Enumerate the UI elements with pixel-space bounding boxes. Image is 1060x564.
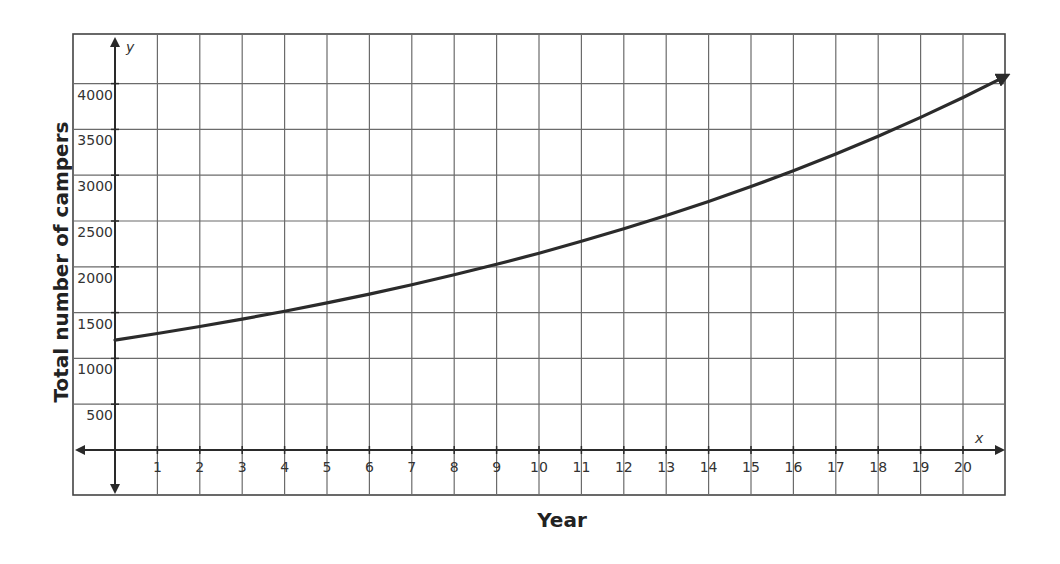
data-curve (115, 76, 1005, 340)
y-tick-label: 3000 (77, 178, 113, 194)
x-variable-label: x (974, 430, 984, 446)
x-tick-label: 12 (615, 459, 633, 475)
x-tick-label: 13 (657, 459, 675, 475)
y-tick-labels: 5001000150020002500300035004000 (77, 84, 119, 424)
x-tick-label: 16 (784, 459, 802, 475)
x-tick-label: 2 (195, 459, 204, 475)
y-axis-title: Total number of campers (49, 122, 73, 403)
x-tick-label: 7 (407, 459, 416, 475)
y-tick-label: 4000 (77, 87, 113, 103)
y-tick-label: 500 (86, 407, 113, 423)
y-variable-label: y (125, 39, 135, 55)
y-tick-label: 2500 (77, 224, 113, 240)
x-tick-label: 5 (323, 459, 332, 475)
x-tick-label: 14 (700, 459, 718, 475)
x-tick-label: 3 (238, 459, 247, 475)
x-tick-label: 1 (153, 459, 162, 475)
y-tick-label: 3500 (77, 132, 113, 148)
x-tick-label: 6 (365, 459, 374, 475)
x-axis-title: Year (536, 508, 587, 532)
x-tick-label: 18 (869, 459, 887, 475)
x-tick-label: 19 (912, 459, 930, 475)
x-tick-label: 15 (742, 459, 760, 475)
chart: 1234567891011121314151617181920 50010001… (0, 0, 1060, 564)
y-tick-label: 1500 (77, 316, 113, 332)
vertical-gridlines (157, 34, 963, 495)
x-tick-label: 9 (492, 459, 501, 475)
x-tick-label: 4 (280, 459, 289, 475)
x-tick-label: 8 (450, 459, 459, 475)
y-tick-label: 2000 (77, 270, 113, 286)
x-tick-label: 17 (827, 459, 845, 475)
y-tick-label: 1000 (77, 361, 113, 377)
x-tick-label: 11 (572, 459, 590, 475)
x-tick-label: 20 (954, 459, 972, 475)
x-tick-label: 10 (530, 459, 548, 475)
